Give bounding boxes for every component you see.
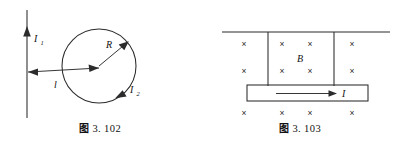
loop-current-arrowhead xyxy=(115,90,126,98)
field-cross: × xyxy=(350,39,355,49)
figure-sheet: I 1 l R I 2 图 3. 102 xyxy=(0,0,400,149)
field-cross: × xyxy=(350,108,355,118)
label-I2-subscript: 2 xyxy=(137,90,141,97)
field-cross: × xyxy=(280,108,285,118)
distance-arrowhead-right xyxy=(89,65,99,73)
field-cross: × xyxy=(280,66,285,76)
distance-line xyxy=(28,68,99,72)
label-I1: I xyxy=(33,33,38,44)
label-current-I: I xyxy=(341,88,346,99)
caption-number-3-102: 3. 102 xyxy=(92,123,121,134)
figure-3-103-drawing: × × × × B × × × × I × × × × xyxy=(200,0,400,120)
label-I2: I xyxy=(129,84,134,95)
figure-3-103-caption: 图 3. 103 xyxy=(200,120,400,135)
caption-number-3-103: 3. 103 xyxy=(292,123,321,134)
field-cross: × xyxy=(308,39,313,49)
caption-prefix-3-102: 图 xyxy=(79,123,89,134)
field-cross: × xyxy=(308,66,313,76)
field-cross: × xyxy=(242,39,247,49)
figure-3-103: × × × × B × × × × I × × × × 图 3. 103 xyxy=(200,0,400,149)
figure-3-102-drawing: I 1 l R I 2 xyxy=(0,0,200,120)
label-I1-subscript: 1 xyxy=(41,39,44,46)
label-B: B xyxy=(297,53,303,64)
field-cross: × xyxy=(350,66,355,76)
field-cross: × xyxy=(308,108,313,118)
label-radius-R: R xyxy=(105,39,112,50)
conducting-bar xyxy=(247,85,368,101)
caption-prefix-3-103: 图 xyxy=(279,123,289,134)
wire-current-arrowhead xyxy=(23,26,31,37)
current-arrowhead xyxy=(329,90,338,97)
field-cross: × xyxy=(280,39,285,49)
field-cross: × xyxy=(242,108,247,118)
figure-3-102-caption: 图 3. 102 xyxy=(0,120,200,135)
field-cross: × xyxy=(242,66,247,76)
distance-arrowhead-left xyxy=(28,68,38,75)
figure-3-102: I 1 l R I 2 图 3. 102 xyxy=(0,0,200,149)
label-distance-l: l xyxy=(54,79,57,90)
